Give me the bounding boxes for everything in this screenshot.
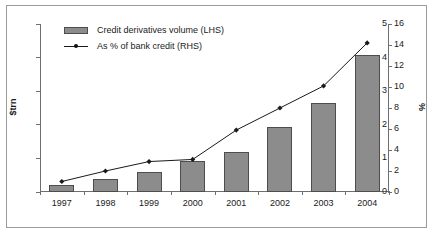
- x-tick-label: 2000: [171, 198, 215, 208]
- x-tick-label: 2002: [258, 198, 302, 208]
- left-tick-label: 0: [382, 187, 387, 196]
- x-tick-label: 2001: [215, 198, 259, 208]
- right-tick-label: 10: [394, 82, 404, 91]
- line-marker: [277, 105, 282, 110]
- right-tick-label: 16: [394, 19, 404, 28]
- plot-area: [40, 24, 389, 192]
- left-tick-label: 4: [382, 53, 387, 62]
- right-tick-label: 6: [394, 124, 399, 133]
- line-marker: [59, 179, 64, 184]
- right-axis-title: %: [417, 98, 427, 116]
- left-tick-label: 3: [382, 86, 387, 95]
- right-tick-label: 2: [394, 166, 399, 175]
- line-marker: [146, 159, 151, 164]
- x-tick-label: 1997: [40, 198, 84, 208]
- line-marker: [103, 168, 108, 173]
- right-tick-label: 14: [394, 40, 404, 49]
- left-tick-label: 5: [382, 19, 387, 28]
- left-tick-label: 2: [382, 120, 387, 129]
- x-tick-label: 1999: [127, 198, 171, 208]
- chart-figure: $trn % Credit derivatives volume (LHS) A…: [0, 0, 433, 234]
- right-tick-label: 8: [394, 103, 399, 112]
- line-path: [62, 43, 367, 182]
- right-tick-label: 0: [394, 187, 399, 196]
- line-series: [40, 24, 389, 192]
- right-tick-label: 12: [394, 61, 404, 70]
- x-tick: [389, 191, 390, 195]
- right-tick-label: 4: [394, 145, 399, 154]
- x-tick-label: 2003: [302, 198, 346, 208]
- left-tick-label: 1: [382, 153, 387, 162]
- left-axis-title: $trn: [8, 96, 18, 118]
- x-tick-label: 1998: [84, 198, 128, 208]
- x-tick-label: 2004: [345, 198, 389, 208]
